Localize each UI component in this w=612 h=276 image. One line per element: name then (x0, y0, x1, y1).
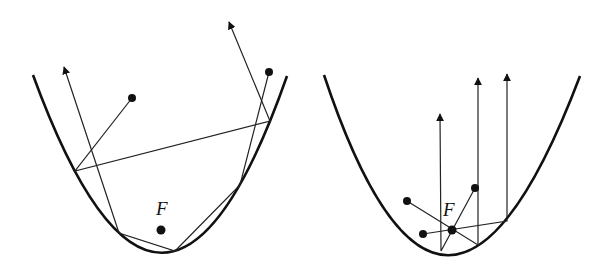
focus-label: F (155, 198, 168, 219)
source-point-left (128, 94, 136, 102)
source-point-2 (419, 230, 427, 238)
ray-path-1 (75, 22, 270, 171)
focus-point (157, 226, 166, 235)
source-point-3 (471, 184, 479, 192)
focus-point (448, 226, 457, 235)
diagram: F F (0, 0, 612, 276)
ray-through-focus-3 (423, 74, 507, 234)
right-panel: F (324, 74, 580, 255)
ray-path-2 (64, 67, 269, 251)
focus-label: F (442, 199, 455, 220)
source-point-1 (403, 197, 411, 205)
source-point-right (265, 68, 273, 76)
left-panel: F (33, 22, 287, 253)
